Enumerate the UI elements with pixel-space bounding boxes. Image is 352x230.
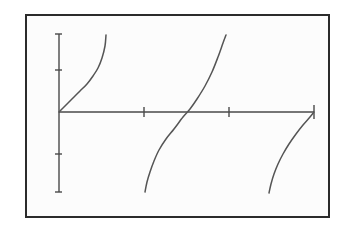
tangent-branch-2 (145, 35, 226, 192)
plot-canvas (27, 16, 328, 216)
tangent-branch-3 (269, 112, 314, 193)
plot-frame (25, 14, 330, 218)
tangent-branch-1 (59, 35, 106, 112)
figure-container (0, 0, 352, 230)
